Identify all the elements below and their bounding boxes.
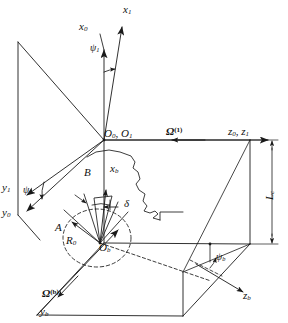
- axis-xb: [100, 190, 106, 243]
- label-x1: x1: [123, 4, 131, 16]
- psib-vertex-dot: [209, 243, 212, 246]
- plane-top-receding-edge: [18, 42, 104, 140]
- label-Ob: Ob: [99, 242, 110, 254]
- label-delta: δ: [124, 198, 129, 209]
- box-bottom-back-edge: [104, 243, 250, 244]
- tear-step-edge: [160, 212, 183, 220]
- label-y0: y0: [2, 207, 10, 219]
- label-psib: ψb: [216, 252, 225, 262]
- box-bottom-front-edge: [37, 315, 183, 316]
- label-R0: R0: [66, 235, 76, 247]
- label-y1: y1: [2, 182, 10, 194]
- label-zb: zb: [243, 290, 251, 302]
- axis-x0-upper: [100, 34, 104, 50]
- label-psi1-top: ψ1: [90, 43, 99, 53]
- label-omega-b: Ω(b): [42, 288, 59, 299]
- label-x0: x0: [79, 21, 87, 33]
- axis-zb-dashed: [100, 243, 211, 281]
- vector-omega-b: [58, 276, 78, 297]
- angle-arc-psi1-top: [104, 69, 115, 72]
- diagram-canvas: x1 x0 ψ1 O0, O1 Ω(1) z0, z1 y1 ψ1 y0 B x…: [0, 0, 288, 323]
- label-z0-z1: z0, z1: [228, 126, 249, 138]
- label-B: B: [84, 167, 91, 178]
- label-yb: yb: [40, 306, 48, 318]
- tear-break-line: [87, 150, 160, 220]
- label-A: A: [55, 222, 62, 233]
- axis-y1: [27, 140, 104, 195]
- label-omega-1: Ω(1): [166, 126, 182, 137]
- label-Lc: Lc: [264, 191, 276, 200]
- axis-y0: [27, 140, 104, 211]
- plane-bottom-left-edge: [18, 215, 40, 240]
- label-psi1-left: ψ1: [23, 185, 32, 195]
- label-O0-O1: O0, O1: [104, 128, 132, 140]
- label-xb: xb: [110, 163, 118, 175]
- axis-x1: [104, 27, 122, 140]
- diagram-vector-graphics: [0, 0, 288, 323]
